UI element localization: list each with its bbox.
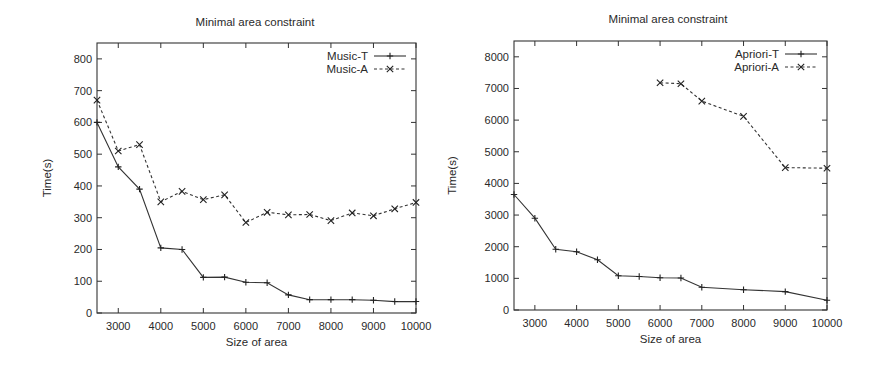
x-tick-label: 7000 — [276, 320, 300, 332]
data-point-marker — [573, 249, 579, 255]
y-tick-label: 3000 — [485, 209, 509, 221]
y-tick-label: 300 — [74, 212, 92, 224]
plot-frame — [97, 43, 416, 313]
y-tick-label: 8000 — [485, 51, 509, 63]
y-tick-label: 800 — [74, 53, 92, 65]
x-tick-label: 10000 — [812, 317, 843, 329]
data-point-marker — [699, 98, 705, 104]
data-point-marker — [370, 297, 376, 303]
x-tick-label: 9000 — [773, 317, 797, 329]
chart-title: Minimal area constraint — [196, 16, 316, 28]
x-tick-label: 5000 — [191, 320, 215, 332]
legend-entry: Apriori-A — [734, 61, 817, 73]
y-axis-label: Time(s) — [41, 159, 53, 198]
data-point-marker — [264, 209, 270, 215]
data-point-marker — [782, 288, 788, 294]
y-tick-label: 700 — [74, 85, 92, 97]
data-point-marker — [553, 246, 559, 252]
legend-label: Music-A — [326, 63, 368, 75]
series-apriori-a — [657, 80, 830, 172]
data-point-marker — [158, 199, 164, 205]
data-point-marker — [94, 119, 100, 125]
data-point-marker — [264, 280, 270, 286]
plot-frame — [514, 41, 827, 310]
data-point-marker — [392, 206, 398, 212]
series-music-a — [94, 97, 419, 226]
x-tick-label: 10000 — [401, 320, 432, 332]
chart-title: Minimal area constraint — [609, 13, 729, 25]
data-point-marker — [285, 292, 291, 298]
legend-label: Music-T — [327, 50, 368, 62]
data-point-marker — [740, 287, 746, 293]
x-axis: 300040005000600070008000900010000 — [106, 43, 431, 332]
y-tick-label: 600 — [74, 116, 92, 128]
x-tick-label: 8000 — [319, 320, 343, 332]
x-tick-label: 3000 — [523, 317, 547, 329]
y-tick-label: 0 — [86, 307, 92, 319]
x-tick-label: 7000 — [690, 317, 714, 329]
data-point-marker — [158, 245, 164, 251]
data-point-marker — [740, 113, 746, 119]
chart-panel-music: Minimal area constraint30004000500060007… — [0, 0, 440, 366]
y-axis-label: Time(s) — [446, 156, 458, 195]
y-tick-label: 1000 — [485, 272, 509, 284]
y-tick-label: 2000 — [485, 241, 509, 253]
apriori-time-chart: Minimal area constraint30004000500060007… — [440, 0, 881, 366]
legend-label: Apriori-A — [734, 61, 779, 73]
data-point-marker — [370, 213, 376, 219]
y-tick-label: 400 — [74, 180, 92, 192]
data-point-marker — [657, 275, 663, 281]
x-tick-label: 5000 — [606, 317, 630, 329]
series-apriori-t — [511, 191, 830, 303]
data-point-marker — [136, 141, 142, 147]
data-point-marker — [306, 211, 312, 217]
series-line — [514, 195, 827, 301]
data-point-marker — [243, 279, 249, 285]
legend-entry: Music-T — [327, 50, 406, 62]
x-axis-label: Size of area — [640, 333, 702, 345]
y-tick-label: 500 — [74, 148, 92, 160]
data-point-marker — [413, 298, 419, 304]
legend-marker — [387, 53, 393, 59]
data-point-marker — [243, 219, 249, 225]
data-point-marker — [392, 298, 398, 304]
x-axis: 300040005000600070008000900010000 — [523, 41, 843, 329]
data-point-marker — [221, 274, 227, 280]
legend-label: Apriori-T — [735, 48, 779, 60]
series-line — [97, 122, 416, 301]
chart-panel-apriori: Minimal area constraint30004000500060007… — [440, 0, 881, 366]
data-point-marker — [328, 217, 334, 223]
y-tick-label: 7000 — [485, 82, 509, 94]
legend-entry: Music-A — [326, 63, 406, 75]
y-tick-label: 6000 — [485, 114, 509, 126]
data-point-marker — [306, 296, 312, 302]
x-tick-label: 9000 — [361, 320, 385, 332]
data-point-marker — [636, 273, 642, 279]
data-point-marker — [328, 296, 334, 302]
legend-entry: Apriori-T — [735, 48, 817, 60]
x-tick-label: 8000 — [731, 317, 755, 329]
x-tick-label: 6000 — [234, 320, 258, 332]
data-point-marker — [200, 196, 206, 202]
data-point-marker — [115, 148, 121, 154]
x-tick-label: 6000 — [648, 317, 672, 329]
series-line — [660, 83, 827, 168]
data-point-marker — [179, 188, 185, 194]
data-point-marker — [349, 296, 355, 302]
x-tick-label: 4000 — [149, 320, 173, 332]
y-axis: 0100200300400500600700800 — [74, 53, 416, 319]
data-point-marker — [678, 275, 684, 281]
data-point-marker — [699, 284, 705, 290]
x-tick-label: 3000 — [106, 320, 130, 332]
y-tick-label: 100 — [74, 275, 92, 287]
music-time-chart: Minimal area constraint30004000500060007… — [0, 0, 440, 366]
x-tick-label: 4000 — [564, 317, 588, 329]
data-point-marker — [824, 297, 830, 303]
y-axis: 010002000300040005000600070008000 — [485, 51, 827, 316]
x-axis-label: Size of area — [226, 336, 288, 348]
y-tick-label: 5000 — [485, 146, 509, 158]
y-tick-label: 4000 — [485, 177, 509, 189]
y-tick-label: 0 — [503, 304, 509, 316]
legend-marker — [798, 51, 804, 57]
y-tick-label: 200 — [74, 243, 92, 255]
